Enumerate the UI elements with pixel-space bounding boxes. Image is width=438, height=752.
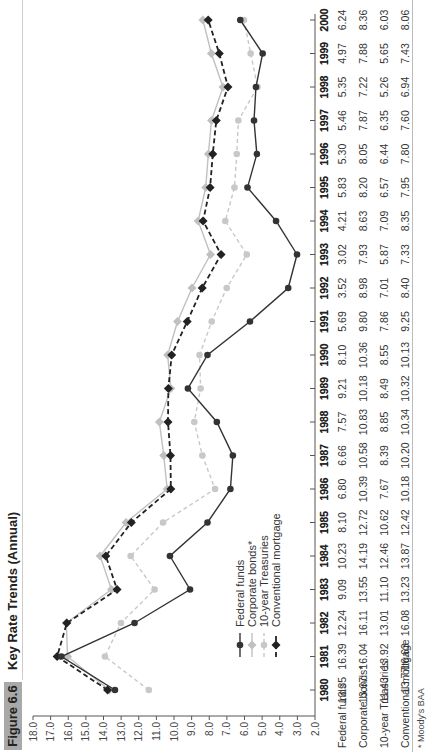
footnote-divider [412, 0, 413, 752]
table-cell: 9.80 [357, 305, 369, 339]
data-point [212, 486, 219, 493]
table-cell: 8.98 [357, 271, 369, 305]
y-tick-label: 13.0 [116, 722, 127, 742]
data-point [294, 251, 301, 258]
table-cell: 5.65 [378, 37, 390, 71]
data-point [187, 586, 194, 593]
table-cell: 3.52 [336, 271, 348, 305]
data-point [191, 419, 198, 426]
table-cell: 7.33 [399, 238, 411, 272]
table-cell: 6.44 [378, 137, 390, 171]
table-cell: 16.11 [357, 606, 369, 640]
table-cell: 7.60 [399, 104, 411, 138]
table-cell: 13.87 [399, 539, 411, 573]
data-point [227, 486, 234, 493]
table-cell: 6.03 [378, 3, 390, 37]
table-cell: 10.32 [399, 372, 411, 406]
y-tick-label: 2.0 [310, 722, 321, 736]
y-tick-label: 18.0 [28, 722, 39, 742]
table-cell: 4.21 [336, 204, 348, 238]
table-cell: 13.55 [357, 573, 369, 607]
table-cell: 5.26 [378, 70, 390, 104]
table-cell: 8.10 [336, 338, 348, 372]
table-cell: 10.34 [399, 405, 411, 439]
table-cell: 13.35 [336, 673, 348, 707]
data-point [127, 553, 134, 560]
table-cell: 5.87 [378, 238, 390, 272]
table-cell: 4.97 [336, 37, 348, 71]
table-cell: 10.13 [399, 338, 411, 372]
table-cell: 16.08 [399, 606, 411, 640]
y-tick-label: 5.0 [257, 722, 268, 736]
table-cell: 12.42 [399, 506, 411, 540]
table-cell: 7.43 [399, 37, 411, 71]
data-point [102, 653, 109, 660]
table-cell: 11.10 [378, 573, 390, 607]
data-point [217, 250, 226, 259]
data-point [145, 687, 152, 694]
data-point [214, 419, 221, 426]
data-point [185, 385, 192, 392]
data-point [155, 418, 164, 427]
y-tick-label: 3.0 [292, 722, 303, 736]
figure-header: Figure 6.6 Key Rate Trends (Annual) [4, 0, 22, 752]
y-tick-label: 12.0 [133, 722, 144, 742]
table-year-header: 1994 [318, 204, 330, 238]
legend-swatch-marker [272, 641, 281, 650]
y-tick-label: 4.0 [274, 722, 285, 736]
table-year-header: 1998 [318, 70, 330, 104]
table-year-header: 1996 [318, 137, 330, 171]
table-cell: 14.19 [357, 539, 369, 573]
table-year-header: 1989 [318, 372, 330, 406]
table-cell: 3.02 [336, 238, 348, 272]
table-cell: 9.09 [336, 573, 348, 607]
table-cell: 10.18 [357, 372, 369, 406]
table-cell: 12.24 [336, 606, 348, 640]
data-point [164, 418, 173, 427]
table-year-header: 1984 [318, 539, 330, 573]
y-tick-label: 7.0 [221, 722, 232, 736]
table-cell: 8.20 [357, 171, 369, 205]
table-cell: 8.10 [336, 506, 348, 540]
y-tick-label: 14.0 [98, 722, 109, 742]
table-cell: 8.85 [378, 405, 390, 439]
data-point [204, 16, 213, 25]
data-point [118, 620, 125, 627]
data-point [206, 250, 215, 259]
table-cell: 9.21 [336, 372, 348, 406]
data-point [112, 687, 119, 694]
table-cell: 6.94 [399, 70, 411, 104]
table-cell: 6.57 [378, 171, 390, 205]
data-point [243, 251, 250, 258]
table-cell: 10.62 [378, 506, 390, 540]
legend-swatch-marker [237, 642, 244, 649]
data-point [223, 285, 230, 292]
table-cell: 8.35 [399, 204, 411, 238]
table-cell: 10.39 [357, 472, 369, 506]
data-point [273, 218, 280, 225]
data-point [204, 519, 211, 526]
legend-label: Conventional mortgage [270, 513, 282, 627]
y-tick-label: 11.0 [151, 722, 162, 741]
table-cell: 7.93 [357, 238, 369, 272]
table-year-header: 1999 [318, 37, 330, 71]
data-point [131, 620, 138, 627]
table-cell: 8.05 [357, 137, 369, 171]
y-tick-label: 17.0 [45, 722, 56, 742]
data-point [207, 49, 216, 58]
table-cell: 11.43 [378, 673, 390, 707]
table-cell: 7.67 [378, 472, 390, 506]
data-point [160, 519, 167, 526]
table-cell: 13.23 [399, 573, 411, 607]
table-year-header: 2000 [318, 3, 330, 37]
table-cell: 5.35 [336, 70, 348, 104]
table-cell: 5.30 [336, 137, 348, 171]
table-cell: 7.95 [399, 171, 411, 205]
data-point [233, 151, 240, 158]
data-point [254, 151, 261, 158]
data-point [199, 452, 206, 459]
table-year-header: 1990 [318, 338, 330, 372]
table-cell: 8.06 [399, 3, 411, 37]
legend-swatch-marker [248, 641, 257, 650]
data-point [197, 385, 204, 392]
